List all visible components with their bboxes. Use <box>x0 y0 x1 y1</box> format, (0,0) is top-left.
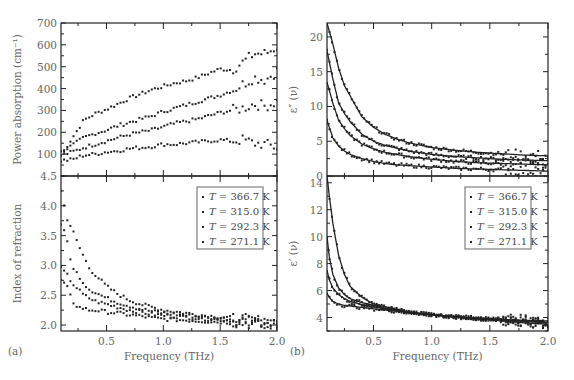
chart-a-top: 100200300400500600700Power absorption (c… <box>11 17 278 176</box>
legend: T = 366.7 KT = 315.0 KT = 292.3 KT = 271… <box>197 187 270 249</box>
x-tick-label: 0.5 <box>98 335 115 347</box>
legend-marker <box>470 211 472 213</box>
y-tick-label: 3.0 <box>40 259 57 271</box>
legend-marker <box>202 196 204 198</box>
y-tick-label: 600 <box>37 39 57 51</box>
x-tick-label: 1.0 <box>423 335 440 347</box>
fit-curve <box>327 51 548 161</box>
y-tick-label: 2.5 <box>40 289 57 301</box>
y-tick-label: 15 <box>310 66 323 78</box>
y-tick-label: 300 <box>37 104 57 116</box>
legend-marker <box>470 241 472 243</box>
legend-entry: T = 315.0 K <box>209 206 270 217</box>
legend-entry: T = 292.3 K <box>209 221 270 232</box>
y-tick-label: 4 <box>316 312 323 324</box>
series-3 <box>326 293 549 329</box>
legend-marker <box>470 226 472 228</box>
x-tick-label: 1.0 <box>155 335 172 347</box>
y-tick-label: 10 <box>310 231 323 243</box>
y-tick-label: 4.5 <box>40 170 57 182</box>
chart-b-top: 05101520ε″ (ν) <box>287 23 549 182</box>
fit-curve <box>327 23 548 156</box>
legend-entry: T = 271.1 K <box>477 236 538 247</box>
legend-entry: T = 271.1 K <box>209 236 270 247</box>
legend-entry: T = 366.7 K <box>209 191 270 202</box>
y-axis-label: ε′ (ν) <box>287 241 299 267</box>
series-0 <box>326 23 549 161</box>
legend-entry: T = 366.7 K <box>477 191 538 202</box>
y-tick-label: 8 <box>316 258 323 270</box>
legend-marker <box>470 196 472 198</box>
legend-marker <box>202 241 204 243</box>
y-axis-label: Index of refraction <box>11 203 23 303</box>
series-3 <box>60 135 278 163</box>
y-tick-label: 10 <box>310 100 323 112</box>
y-tick-label: 2.0 <box>40 319 57 331</box>
plot-frame <box>61 23 277 176</box>
x-tick-label: 0.5 <box>365 335 382 347</box>
x-tick-label: 1.5 <box>212 335 229 347</box>
x-tick-label: 2.0 <box>269 335 286 347</box>
x-tick-label: 2.0 <box>540 335 557 347</box>
x-axis-label: Frequency (THz) <box>392 350 482 362</box>
fit-curve <box>327 82 548 165</box>
legend: T = 366.7 KT = 315.0 KT = 292.3 KT = 271… <box>465 187 538 249</box>
y-tick-label: 3.5 <box>40 230 57 242</box>
plot-frame <box>327 23 548 176</box>
series-2 <box>60 99 278 156</box>
y-tick-label: 700 <box>37 17 57 29</box>
y-axis-label: Power absorption (cm⁻¹) <box>11 34 23 165</box>
panel-b-label: (b) <box>290 345 305 357</box>
y-tick-label: 400 <box>37 83 57 95</box>
panel-a-label: (a) <box>8 345 22 357</box>
series-1 <box>326 237 549 328</box>
y-tick-label: 14 <box>310 177 324 189</box>
legend-marker <box>202 226 204 228</box>
y-axis-label: ε″ (ν) <box>287 86 299 113</box>
y-tick-label: 5 <box>316 135 323 147</box>
y-tick-label: 6 <box>316 285 323 297</box>
legend-marker <box>202 211 204 213</box>
y-tick-label: 12 <box>310 204 323 216</box>
y-tick-label: 4.0 <box>40 200 57 212</box>
legend-entry: T = 315.0 K <box>477 206 538 217</box>
x-tick-label: 1.5 <box>481 335 498 347</box>
figure: 100200300400500600700Power absorption (c… <box>0 0 574 380</box>
y-tick-label: 200 <box>37 126 57 138</box>
series-2 <box>60 266 278 329</box>
x-axis-label: Frequency (THz) <box>124 350 214 362</box>
y-tick-label: 500 <box>37 61 57 73</box>
y-tick-label: 20 <box>310 31 323 43</box>
legend-entry: T = 292.3 K <box>477 221 538 232</box>
y-tick-label: 100 <box>37 148 57 160</box>
